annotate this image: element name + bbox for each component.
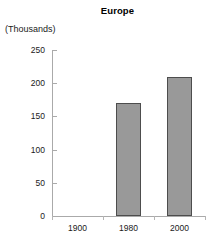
x-tick-mark — [103, 216, 104, 220]
y-tick-label: 250 — [8, 45, 52, 55]
bar-chart: Europe (Thousands) 050100150200250 19001… — [0, 0, 217, 245]
y-tick-label: 0 — [8, 211, 52, 221]
y-tick-label: 100 — [8, 145, 52, 155]
y-axis-units-label: (Thousands) — [5, 24, 56, 34]
bar — [167, 77, 192, 216]
y-tick-mark — [52, 83, 57, 84]
x-tick-label: 1900 — [68, 223, 87, 233]
x-tick-label: 1980 — [119, 223, 138, 233]
y-tick-label: 200 — [8, 78, 52, 88]
x-axis-line — [52, 216, 205, 217]
x-tick-label: 2000 — [170, 223, 189, 233]
x-tick-mark — [52, 216, 53, 220]
chart-title: Europe — [0, 5, 217, 16]
y-axis-line — [52, 50, 53, 217]
y-tick-label: 150 — [8, 111, 52, 121]
y-tick-mark — [52, 50, 57, 51]
y-tick-mark — [52, 183, 57, 184]
bar — [116, 103, 141, 216]
y-tick-mark — [52, 150, 57, 151]
x-tick-mark — [154, 216, 155, 220]
x-tick-mark — [205, 216, 206, 220]
y-tick-label: 50 — [8, 178, 52, 188]
y-tick-mark — [52, 116, 57, 117]
